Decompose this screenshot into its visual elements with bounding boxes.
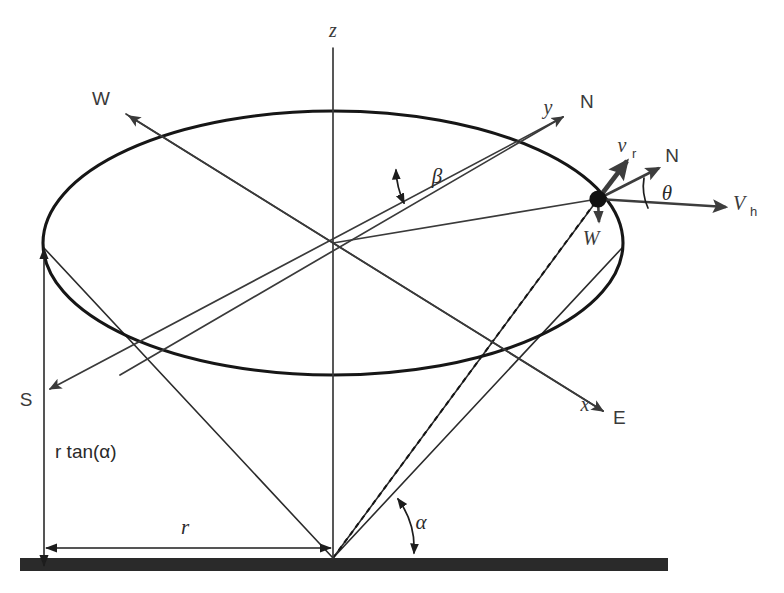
beta-angle-group xyxy=(396,170,404,203)
cone-geometry-diagram: z y N W S x E v r N V h W β θ α r tan(α)… xyxy=(0,0,784,593)
theta-angle-arc xyxy=(643,178,648,208)
w-vector-label: W xyxy=(583,227,602,249)
y-axis-label: y xyxy=(542,96,553,119)
alpha-angle-label: α xyxy=(415,510,427,534)
center-to-point-line xyxy=(333,199,598,243)
vector-bundle xyxy=(589,161,726,222)
alpha-angle-arc xyxy=(398,499,414,553)
beta-angle-label: β xyxy=(431,164,443,188)
north-vector-label: N xyxy=(665,145,679,166)
vr-vector-label-group: v r xyxy=(618,134,637,161)
vr-vector-label: v xyxy=(618,134,627,156)
radius-dimension-label: r xyxy=(181,515,190,539)
s-axis-group xyxy=(50,117,563,389)
vh-vector-subscript: h xyxy=(750,204,757,219)
ground-surface xyxy=(20,558,668,571)
cone-edge-left xyxy=(44,248,333,558)
east-axis-label: E xyxy=(613,407,626,428)
south-axis-label: S xyxy=(20,389,33,410)
height-dimension-label: r tan(α) xyxy=(55,441,117,462)
vh-vector-label-group: V h xyxy=(733,192,757,219)
w-axis-line xyxy=(129,116,603,411)
vr-vector-subscript: r xyxy=(632,146,637,161)
figure-canvas: z y N W S x E v r N V h W β θ α r tan(α)… xyxy=(0,0,784,593)
north-axis-label: N xyxy=(580,91,594,112)
west-axis-label: W xyxy=(92,88,110,109)
alpha-angle-group xyxy=(398,499,414,553)
cone-edge-right xyxy=(333,248,622,558)
w-axis-group xyxy=(129,116,603,411)
theta-angle-label: θ xyxy=(662,181,672,205)
target-point-marker xyxy=(589,190,606,207)
s-axis-line xyxy=(50,117,563,389)
z-axis-label: z xyxy=(328,19,337,41)
x-axis-label: x xyxy=(580,393,590,415)
beta-angle-arc xyxy=(396,170,404,203)
vh-vector-label: V xyxy=(733,192,748,214)
